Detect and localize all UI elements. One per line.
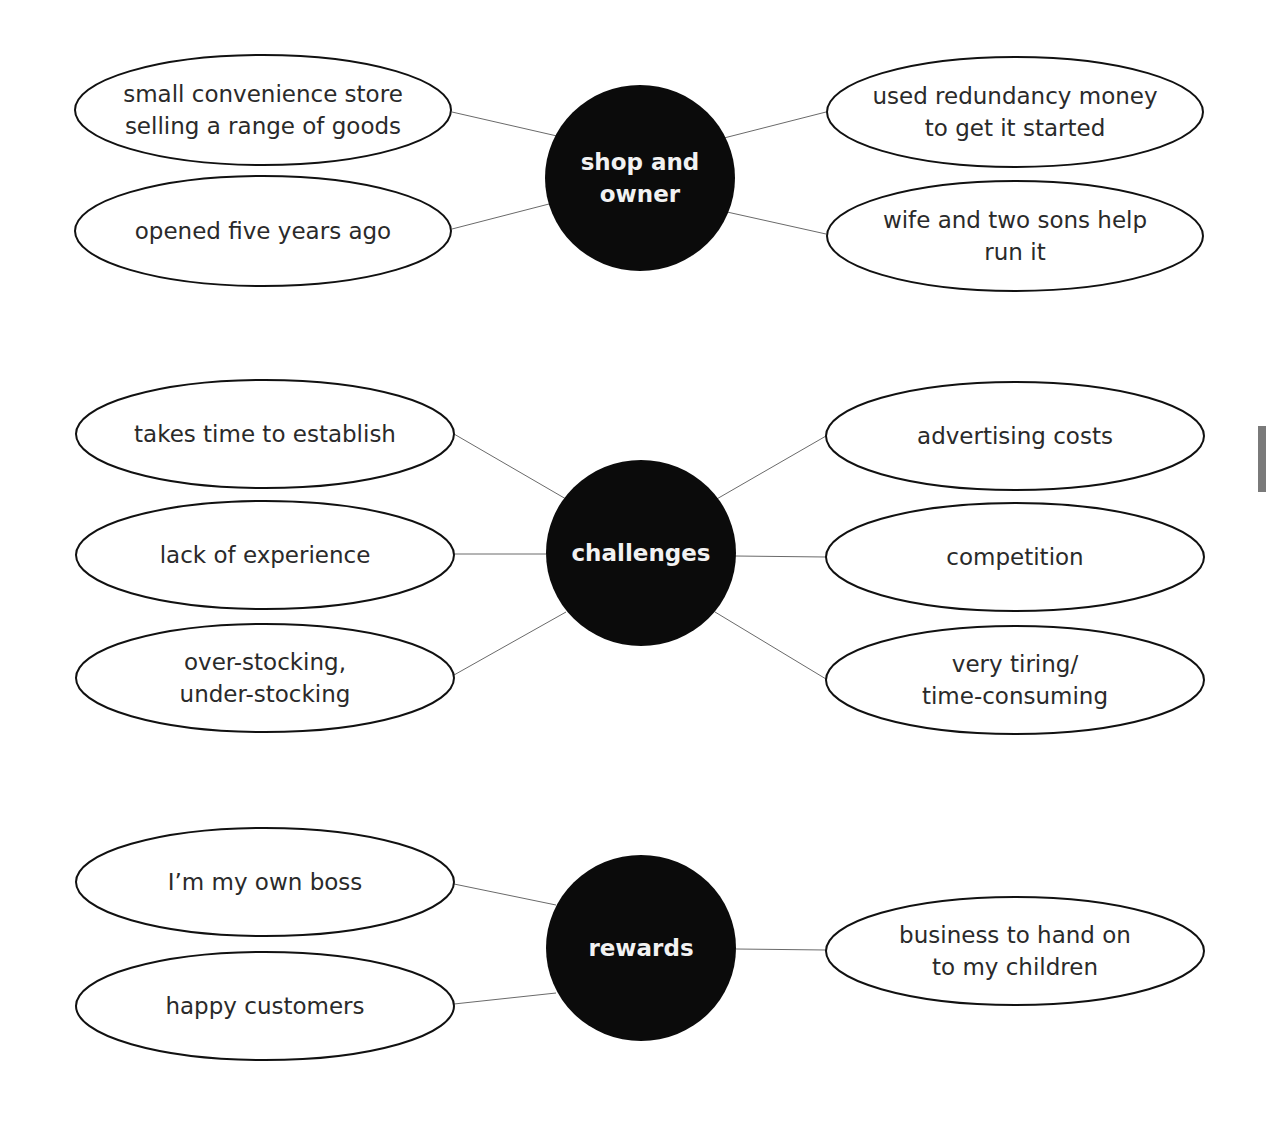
node-label: opened five years ago — [135, 218, 391, 244]
connector-line — [452, 112, 557, 136]
leaf-node: advertising costs — [826, 382, 1204, 490]
node-label: to get it started — [925, 115, 1106, 141]
node-label: over-stocking, — [184, 649, 346, 675]
nodes: shop andownersmall convenience storesell… — [75, 55, 1204, 1060]
leaf-ellipse — [826, 897, 1204, 1005]
leaf-node: lack of experience — [76, 501, 454, 609]
leaf-ellipse — [826, 626, 1204, 734]
node-label: wife and two sons help — [883, 207, 1147, 233]
connector-line — [724, 112, 826, 138]
connector-line — [735, 556, 826, 557]
hub-node-challenges: challenges — [546, 460, 736, 646]
page-edge-tab-marker — [1258, 426, 1266, 492]
mind-map-diagram: shop andownersmall convenience storesell… — [0, 0, 1266, 1123]
node-label: to my children — [932, 954, 1098, 980]
node-label: business to hand on — [899, 922, 1131, 948]
leaf-node: takes time to establish — [76, 380, 454, 488]
node-label: run it — [984, 239, 1045, 265]
leaf-node: very tiring/time-consuming — [826, 626, 1204, 734]
leaf-node: small convenience storeselling a range o… — [75, 55, 451, 165]
leaf-ellipse — [827, 181, 1203, 291]
node-label: lack of experience — [160, 542, 371, 568]
leaf-ellipse — [827, 57, 1203, 167]
node-label: under-stocking — [180, 681, 351, 707]
leaf-node: business to hand onto my children — [826, 897, 1204, 1005]
leaf-node: competition — [826, 503, 1204, 611]
connector-line — [736, 949, 826, 950]
connector-line — [727, 212, 826, 234]
leaf-node: I’m my own boss — [76, 828, 454, 936]
leaf-node: over-stocking,under-stocking — [76, 624, 454, 732]
node-label: time-consuming — [922, 683, 1108, 709]
connector-line — [454, 884, 556, 905]
node-label: small convenience store — [123, 81, 403, 107]
hub-label: owner — [600, 181, 681, 207]
connector-line — [715, 612, 826, 679]
connector-line — [454, 612, 566, 675]
hub-node-rewards: rewards — [546, 855, 736, 1041]
connector-line — [452, 204, 549, 229]
hub-node-shop-and-owner: shop andowner — [545, 85, 735, 271]
node-label: I’m my own boss — [168, 869, 363, 895]
leaf-ellipse — [75, 55, 451, 165]
leaf-node: used redundancy moneyto get it started — [827, 57, 1203, 167]
hub-label: challenges — [571, 540, 710, 566]
hub-label: shop and — [581, 149, 700, 175]
node-label: happy customers — [165, 993, 364, 1019]
leaf-node: wife and two sons helprun it — [827, 181, 1203, 291]
hub-circle — [545, 85, 735, 271]
node-label: takes time to establish — [134, 421, 396, 447]
connector-line — [715, 436, 826, 500]
leaf-node: happy customers — [76, 952, 454, 1060]
leaf-node: opened five years ago — [75, 176, 451, 286]
connector-line — [454, 434, 566, 499]
node-label: selling a range of goods — [125, 113, 401, 139]
connector-line — [454, 993, 556, 1004]
node-label: competition — [946, 544, 1083, 570]
leaf-ellipse — [76, 624, 454, 732]
hub-label: rewards — [588, 935, 693, 961]
node-label: advertising costs — [917, 423, 1113, 449]
node-label: very tiring/ — [952, 651, 1079, 677]
node-label: used redundancy money — [872, 83, 1157, 109]
